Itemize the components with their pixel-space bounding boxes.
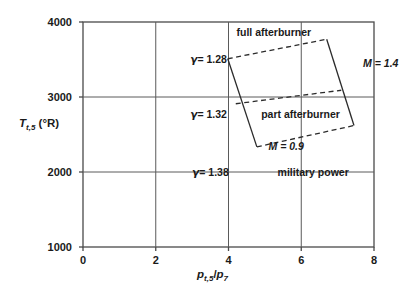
full-afterburner-label: full afterburner (237, 26, 312, 38)
mach-09-label: M = 0.9 (269, 140, 304, 152)
part-afterburner-label: part afterburner (261, 108, 340, 120)
data-series-group (228, 39, 354, 147)
x-axis-title-sub2: 7 (224, 274, 228, 283)
gamma-138-label: γ= 1.38 (192, 166, 229, 178)
military-power-label: military power (278, 166, 349, 178)
y-axis-title-unit-text: (°R) (39, 117, 60, 129)
xtick-label-4: 4 (214, 254, 244, 266)
x-axis-title-p1: p (197, 268, 204, 280)
chart-figure: 4000 3000 2000 1000 0 2 4 6 8 Tt,5 (°R) … (0, 0, 399, 292)
ytick-label-3000: 3000 (26, 91, 72, 103)
x-axis-title-p2: p (217, 268, 224, 280)
xtick-label-8: 8 (359, 254, 389, 266)
ytick-label-2000: 2000 (26, 166, 72, 178)
xtick-label-0: 0 (68, 254, 98, 266)
x-axis-title: pt,5/p7 (197, 268, 228, 283)
series-m-0-9 (228, 59, 257, 147)
y-axis-title-sub: t,5 (26, 123, 35, 132)
xtick-label-6: 6 (286, 254, 316, 266)
y-axis-title-main: T (19, 117, 26, 129)
gamma-138-label-text: = 1.38 (199, 166, 229, 178)
gamma-132-label: γ= 1.32 (190, 108, 227, 120)
gamma-128-label: γ= 1.28 (190, 53, 227, 65)
gamma-132-label-text: = 1.32 (197, 108, 227, 120)
xtick-label-2: 2 (141, 254, 171, 266)
mach-14-label: M = 1.4 (363, 57, 398, 69)
x-axis-title-sub1: t,5 (204, 274, 213, 283)
ytick-label-4000: 4000 (26, 16, 72, 28)
gamma-128-label-text: = 1.28 (197, 53, 227, 65)
series-full-afterburner (228, 39, 327, 59)
ytick-label-1000: 1000 (26, 241, 72, 253)
y-axis-title: Tt,5 (°R) (19, 117, 59, 132)
